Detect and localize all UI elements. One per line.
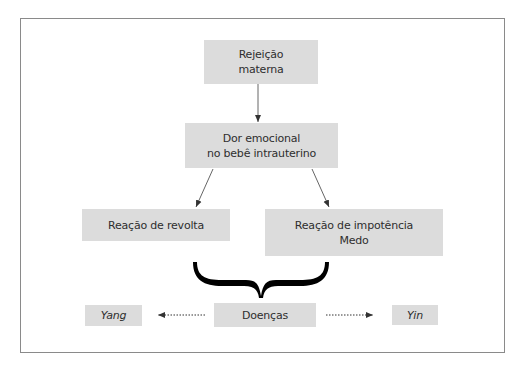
node-label: Reação de revolta	[108, 218, 204, 233]
node-label: Doenças	[242, 308, 288, 323]
node-label: Yang	[101, 308, 127, 323]
node-reacao-revolta: Reação de revolta	[82, 209, 230, 241]
node-label: Rejeição	[239, 47, 284, 62]
node-label: no bebê intrauterino	[207, 146, 316, 161]
node-label: Dor emocional	[223, 131, 300, 146]
node-label: materna	[238, 62, 283, 77]
node-doencas: Doenças	[214, 303, 316, 327]
node-rejeicao-materna: Rejeição materna	[204, 40, 318, 84]
node-label: Reação de impotência	[295, 218, 413, 233]
node-dor-emocional: Dor emocional no bebê intrauterino	[185, 123, 338, 168]
node-yang: Yang	[85, 305, 142, 326]
node-yin: Yin	[392, 305, 438, 325]
node-reacao-impotencia: Reação de impotência Medo	[265, 209, 443, 256]
node-label: Medo	[339, 233, 368, 248]
node-label: Yin	[407, 308, 423, 323]
